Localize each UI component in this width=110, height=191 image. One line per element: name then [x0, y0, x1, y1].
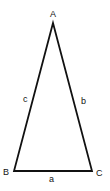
vertex-label-a: A	[50, 9, 56, 19]
vertex-label-b: B	[3, 167, 9, 177]
side-label-a: a	[49, 174, 54, 184]
side-label-c: c	[23, 94, 28, 104]
vertex-label-c: C	[96, 168, 103, 178]
side-label-b: b	[81, 96, 86, 106]
triangle-diagram: A B C c b a	[0, 0, 110, 191]
